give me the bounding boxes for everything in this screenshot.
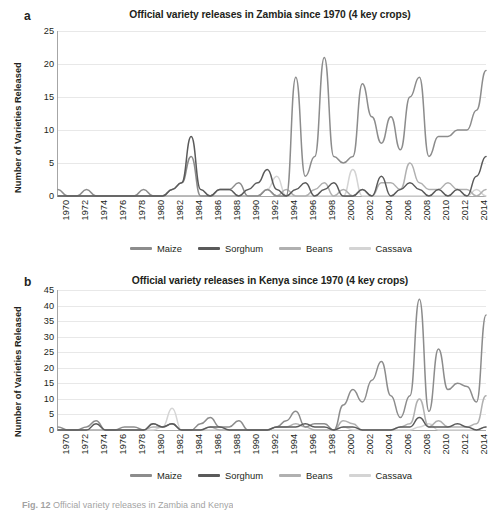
- x-axis-tick-label: 2002: [366, 434, 375, 454]
- legend-swatch-cassava-icon: [349, 247, 371, 250]
- legend-label: Maize: [157, 470, 182, 481]
- legend-item-sorghum[interactable]: Sorghum: [198, 243, 263, 254]
- legend-swatch-beans-icon: [279, 247, 301, 250]
- y-axis-tick-label: 25: [44, 347, 54, 357]
- legend-label: Cassava: [376, 243, 412, 254]
- x-axis-tick-label: 1988: [233, 200, 242, 220]
- x-axis-tick-label: 1990: [252, 200, 261, 220]
- y-axis-tick-label: 5: [49, 158, 54, 168]
- y-axis-tick-label: 35: [44, 316, 54, 326]
- legend-swatch-cassava-icon: [349, 474, 371, 477]
- figure-container: a Official variety releases in Zambia si…: [0, 0, 499, 513]
- panel-b: b Official variety releases in Kenya sin…: [0, 262, 499, 494]
- x-axis-tick-label: 1978: [138, 200, 147, 220]
- x-axis-tick-label: 2010: [442, 434, 451, 454]
- y-axis-tick-label: 0: [49, 425, 54, 435]
- legend-item-maize[interactable]: Maize: [130, 243, 182, 254]
- x-axis-tick-label: 1988: [233, 434, 242, 454]
- legend-a: MaizeSorghumBeansCassava: [57, 243, 485, 254]
- x-axis-tick-label: 1986: [214, 434, 223, 454]
- x-axis-tick-label: 1978: [138, 434, 147, 454]
- legend-item-cassava[interactable]: Cassava: [349, 243, 412, 254]
- panel-letter-b: b: [24, 276, 31, 288]
- x-axis-tick-label: 2008: [423, 434, 432, 454]
- chart-title-b: Official variety releases in Kenya since…: [55, 275, 485, 286]
- legend-item-beans[interactable]: Beans: [279, 243, 333, 254]
- x-axis-tick-label: 1996: [309, 200, 318, 220]
- series-line-sorghum: [58, 137, 486, 196]
- x-axis-tick-label: 1982: [176, 200, 185, 220]
- y-axis-tick-label: 15: [44, 92, 54, 102]
- y-axis-tick-label: 5: [49, 409, 54, 419]
- figure-caption-text: Official variety releases in Zambia and …: [53, 500, 233, 510]
- x-axis-tick-label: 1972: [81, 434, 90, 454]
- x-axis-tick-label: 1990: [252, 434, 261, 454]
- x-axis-tick-label: 2006: [404, 200, 413, 220]
- series-layer: [58, 31, 486, 196]
- x-axis-tick-label: 1984: [195, 200, 204, 220]
- x-axis-tick-label: 1980: [157, 434, 166, 454]
- x-axis-tick-label: 2012: [461, 200, 470, 220]
- legend-b: MaizeSorghumBeansCassava: [57, 470, 485, 481]
- legend-item-beans[interactable]: Beans: [279, 470, 333, 481]
- x-axis-tick-label: 1996: [309, 434, 318, 454]
- legend-swatch-sorghum-icon: [198, 247, 220, 250]
- series-line-beans: [58, 396, 486, 430]
- chart-title-a: Official variety releases in Zambia sinc…: [55, 9, 485, 20]
- figure-caption-prefix: Fig. 12: [22, 500, 51, 510]
- legend-swatch-maize-icon: [130, 247, 152, 250]
- x-axis-tick-label: 1982: [176, 434, 185, 454]
- x-axis-tick-label: 2004: [385, 200, 394, 220]
- x-axis-tick-label: 1970: [62, 200, 71, 220]
- legend-label: Beans: [306, 470, 333, 481]
- x-axis-tick-label: 1986: [214, 200, 223, 220]
- y-axis-tick-label: 10: [44, 394, 54, 404]
- series-line-maize: [58, 299, 486, 430]
- panel-letter-a: a: [24, 10, 31, 22]
- x-axis-tick-label: 1974: [100, 434, 109, 454]
- legend-swatch-beans-icon: [279, 474, 301, 477]
- legend-label: Beans: [306, 243, 333, 254]
- x-axis-tick-label: 1972: [81, 200, 90, 220]
- x-axis-tick-label: 2012: [461, 434, 470, 454]
- x-axis-tick-label: 1992: [271, 434, 280, 454]
- x-axis-tick-label: 2014: [480, 434, 489, 454]
- legend-item-cassava[interactable]: Cassava: [349, 470, 412, 481]
- plot-area-b: 0510152025303540451970197219741976197819…: [57, 290, 486, 431]
- x-axis-tick-label: 1976: [119, 434, 128, 454]
- legend-swatch-maize-icon: [130, 474, 152, 477]
- x-axis-tick-label: 2002: [366, 200, 375, 220]
- x-axis-tick-label: 1984: [195, 434, 204, 454]
- x-axis-tick-label: 2006: [404, 434, 413, 454]
- x-axis-tick-label: 2004: [385, 434, 394, 454]
- x-axis-tick-label: 2014: [480, 200, 489, 220]
- x-axis-tick-label: 1998: [328, 200, 337, 220]
- legend-swatch-sorghum-icon: [198, 474, 220, 477]
- legend-item-sorghum[interactable]: Sorghum: [198, 470, 263, 481]
- x-axis-tick-label: 1980: [157, 200, 166, 220]
- series-layer: [58, 290, 486, 430]
- x-axis-tick-label: 2010: [442, 200, 451, 220]
- legend-item-maize[interactable]: Maize: [130, 470, 182, 481]
- y-axis-tick-label: 45: [44, 285, 54, 295]
- y-axis-tick-label: 10: [44, 125, 54, 135]
- series-line-sorghum: [58, 418, 486, 430]
- y-axis-label-b: Number of Varieties Released: [13, 306, 23, 437]
- y-axis-tick-label: 0: [49, 191, 54, 201]
- x-axis-tick-label: 1974: [100, 200, 109, 220]
- y-axis-label-a: Number of Varieties Released: [13, 62, 23, 193]
- y-axis-tick-label: 20: [44, 59, 54, 69]
- x-axis-tick-label: 1994: [290, 434, 299, 454]
- y-axis-tick-label: 40: [44, 301, 54, 311]
- x-axis-tick-label: 1992: [271, 200, 280, 220]
- legend-label: Maize: [157, 243, 182, 254]
- legend-label: Sorghum: [225, 470, 263, 481]
- x-axis-tick-label: 2000: [347, 434, 356, 454]
- series-line-maize: [58, 57, 486, 196]
- y-axis-tick-label: 25: [44, 26, 54, 36]
- legend-label: Sorghum: [225, 243, 263, 254]
- figure-caption: Fig. 12 Official variety releases in Zam…: [22, 500, 233, 512]
- y-axis-tick-label: 30: [44, 332, 54, 342]
- x-axis-tick-label: 1998: [328, 434, 337, 454]
- legend-label: Cassava: [376, 470, 412, 481]
